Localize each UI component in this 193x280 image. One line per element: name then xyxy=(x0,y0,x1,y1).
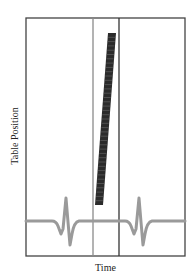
x-axis-label: Time xyxy=(0,262,193,273)
y-axis-label: Table Position xyxy=(9,107,20,164)
ecg-gated-table-position-diagram xyxy=(0,0,193,280)
